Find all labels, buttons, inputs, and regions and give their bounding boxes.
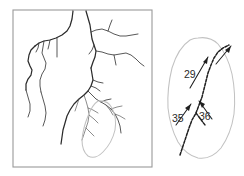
figure-canvas: 293536 — [0, 0, 244, 176]
main-map-panel — [13, 10, 152, 167]
label-29: 29 — [184, 68, 196, 80]
label-36: 36 — [199, 110, 211, 122]
arrow-head-icon — [203, 57, 208, 64]
arrow-upper-right — [216, 46, 231, 64]
figure-root: 293536 — [0, 0, 244, 176]
inset-detail-panel: 293536 — [168, 38, 235, 159]
label-35: 35 — [172, 112, 184, 124]
arrow-head-icon — [185, 104, 191, 111]
inset-number-labels: 293536 — [172, 68, 211, 124]
